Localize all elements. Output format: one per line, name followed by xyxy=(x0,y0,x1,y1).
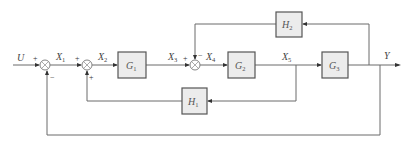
block-g1: G1 xyxy=(118,52,146,78)
summing-junction-1: + − xyxy=(33,54,55,82)
sign-plus: + xyxy=(33,54,38,63)
summing-junction-3: + − xyxy=(183,51,203,70)
arrow-icon xyxy=(77,63,82,67)
arrow-icon xyxy=(35,63,40,67)
arrow-icon xyxy=(113,63,118,67)
sign-minus: − xyxy=(198,51,203,60)
label-x5: X5 xyxy=(281,51,291,63)
summing-junction-2: + + xyxy=(75,54,94,82)
label-input-u: U xyxy=(17,52,25,63)
block-h2: H2 xyxy=(276,12,302,37)
label-output-y: Y xyxy=(384,50,391,61)
block-g3: G3 xyxy=(322,52,348,78)
label-x1: X1 xyxy=(55,51,65,63)
arrow-icon xyxy=(193,55,197,60)
block-h1: H1 xyxy=(182,88,207,114)
sign-plus: + xyxy=(89,73,94,82)
sign-minus: − xyxy=(50,73,55,82)
arrow-icon xyxy=(185,63,190,67)
arrow-icon xyxy=(45,70,49,75)
arrow-icon xyxy=(207,99,212,103)
label-x4: X4 xyxy=(205,51,216,63)
label-x3: X3 xyxy=(167,51,177,63)
arrow-icon xyxy=(302,22,307,26)
arrow-icon xyxy=(223,63,228,67)
sign-plus: + xyxy=(183,54,188,63)
arrow-icon xyxy=(317,63,322,67)
sign-plus: + xyxy=(75,54,80,63)
arrow-icon xyxy=(395,63,401,67)
block-diagram: + − + + + − G1 G2 G3 H1 H2 U X1 X2 X3 X4 xyxy=(0,0,415,147)
block-g2: G2 xyxy=(228,52,255,78)
label-x2: X2 xyxy=(97,51,107,63)
